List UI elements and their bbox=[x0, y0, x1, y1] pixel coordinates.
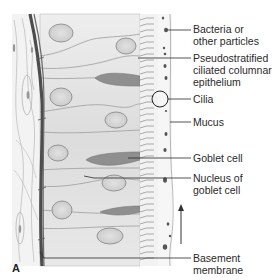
label-bacteria: Bacteria or other particles bbox=[193, 23, 259, 47]
epithelium-diagram: Bacteria or other particles Pseudostrati… bbox=[0, 0, 277, 280]
mucus-flow-arrow-icon bbox=[178, 204, 184, 244]
mucus-layer bbox=[158, 14, 173, 266]
label-cilia: Cilia bbox=[193, 93, 213, 105]
label-goblet-cell: Goblet cell bbox=[193, 152, 243, 164]
label-basement-membrane: Basement membrane bbox=[193, 252, 243, 276]
label-goblet-nucleus: Nucleus of goblet cell bbox=[193, 172, 243, 196]
label-mucus: Mucus bbox=[193, 116, 224, 128]
cilia-layer bbox=[140, 14, 158, 266]
label-epithelium: Pseudostratified ciliated columnar epith… bbox=[193, 52, 272, 88]
panel-letter: A bbox=[12, 262, 20, 274]
